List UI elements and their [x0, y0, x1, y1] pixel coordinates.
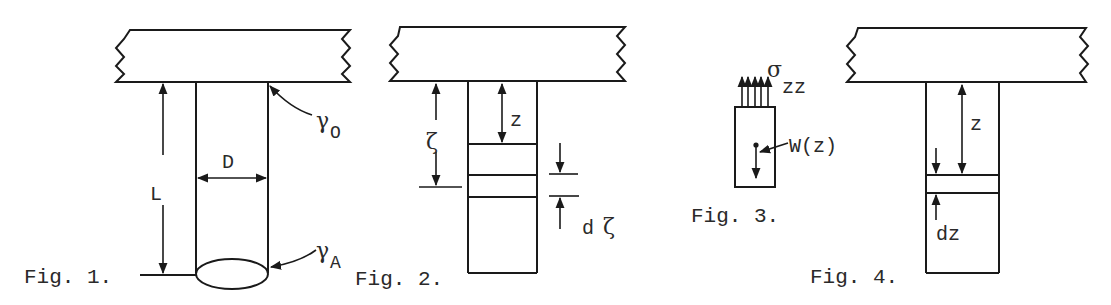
fig1-label-length: L	[150, 183, 162, 206]
fig1-label-gamma-a: γ	[316, 238, 329, 263]
fig2-slab	[390, 27, 625, 81]
fig4-caption: Fig. 4.	[810, 266, 898, 289]
fig4-label-z: z	[970, 113, 982, 136]
fig3-caption: Fig. 3.	[691, 205, 779, 228]
fig4-diagram	[847, 28, 1088, 273]
fig2-label-z: z	[510, 109, 522, 132]
fig1-gamma-a-leader	[271, 250, 316, 267]
fig2-label-dzeta-d: d	[582, 217, 594, 240]
fig3-label-sigma-sub: zz	[782, 76, 806, 99]
fig1-base-ellipse	[196, 259, 268, 289]
fig1-label-gamma-o: γ	[316, 108, 329, 133]
fig2-caption: Fig. 2.	[355, 268, 443, 291]
fig1-label-gamma-a-sub: A	[330, 253, 341, 273]
fig1-gamma-o-leader	[270, 86, 312, 115]
fig2-label-zeta: ζ	[426, 129, 438, 154]
fig3-diagram	[735, 77, 788, 187]
fig4-slab	[847, 28, 1088, 82]
fig1-label-gamma-o-sub: O	[330, 123, 341, 143]
fig4-label-dz: dz	[936, 223, 960, 246]
fig1-caption: Fig. 1.	[24, 266, 112, 289]
figure-sheet: L D γ O γ A Fig. 1. ζ z d ζ Fig. 2.	[0, 0, 1111, 305]
fig1-label-diameter: D	[222, 151, 234, 174]
fig3-label-sigma: σ	[767, 57, 782, 82]
fig3-label-weight: W(z)	[789, 135, 837, 158]
fig1-slab	[116, 30, 350, 82]
fig2-label-dzeta-zeta: ζ	[603, 214, 615, 239]
